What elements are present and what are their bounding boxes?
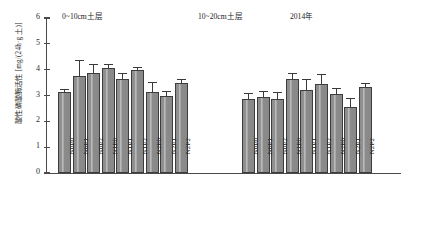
error-bar-line bbox=[277, 93, 278, 98]
y-tick-0 bbox=[44, 172, 50, 173]
error-bar-line bbox=[64, 90, 65, 92]
error-bar-cap bbox=[89, 64, 98, 65]
chart-figure: 酸性磷酸酶活性 [mg/(24h·g 土)] 0~10cm土层 10~20cm土… bbox=[0, 0, 425, 250]
x-tick-label-N0P1: N0P1 bbox=[266, 138, 274, 178]
x-tick-label-N0P0: N0P0 bbox=[252, 138, 260, 178]
y-tick-3 bbox=[44, 95, 50, 96]
x-tick-label-N0P2: N0P2 bbox=[97, 138, 105, 178]
error-bar-line bbox=[108, 65, 109, 68]
x-tick-label-N2P2: N2P2 bbox=[184, 138, 192, 178]
error-bar-line bbox=[350, 99, 351, 107]
y-tick-label-1: 1 bbox=[24, 142, 40, 150]
x-tick-label-N2P2: N2P2 bbox=[368, 138, 376, 178]
y-tick-label-0: 0 bbox=[24, 168, 40, 176]
error-bar-line bbox=[152, 83, 153, 92]
y-tick-label-4: 4 bbox=[24, 65, 40, 73]
error-bar-cap bbox=[346, 98, 355, 99]
x-tick-label-N1P2: N1P2 bbox=[325, 138, 333, 178]
error-bar-cap bbox=[317, 74, 326, 75]
x-tick-label-N1P1: N1P1 bbox=[126, 138, 134, 178]
x-tick-label-N2P1: N2P1 bbox=[170, 138, 178, 178]
x-tick-label-N1P0: N1P0 bbox=[295, 138, 303, 178]
error-bar-cap bbox=[133, 67, 142, 68]
error-bar-cap bbox=[273, 92, 282, 93]
error-bar-cap bbox=[162, 91, 171, 92]
x-tick-label-N1P2: N1P2 bbox=[141, 138, 149, 178]
x-tick-label-N1P0: N1P0 bbox=[111, 138, 119, 178]
error-bar-cap bbox=[118, 73, 127, 74]
error-bar-cap bbox=[104, 64, 113, 65]
error-bar-cap bbox=[177, 79, 186, 80]
x-tick-label-N0P1: N0P1 bbox=[82, 138, 90, 178]
error-bar-cap bbox=[259, 91, 268, 92]
y-axis-title: 酸性磷酸酶活性 [mg/(24h·g 土)] bbox=[13, 0, 23, 163]
error-bar-line bbox=[79, 61, 80, 76]
y-tick-label-3: 3 bbox=[24, 91, 40, 99]
error-bar-line bbox=[365, 84, 366, 87]
error-bar-cap bbox=[75, 60, 84, 61]
y-tick-1 bbox=[44, 147, 50, 148]
error-bar-line bbox=[166, 92, 167, 96]
error-bar-line bbox=[336, 89, 337, 94]
y-tick-4 bbox=[44, 69, 50, 70]
error-bar-line bbox=[93, 65, 94, 73]
error-bar-cap bbox=[332, 88, 341, 89]
error-bar-line bbox=[248, 94, 249, 99]
error-bar-line bbox=[292, 74, 293, 80]
x-tick-label-N2P1: N2P1 bbox=[354, 138, 362, 178]
error-bar-cap bbox=[302, 79, 311, 80]
error-bar-line bbox=[306, 80, 307, 90]
error-bar-cap bbox=[361, 83, 370, 84]
error-bar-cap bbox=[148, 82, 157, 83]
y-tick-label-6: 6 bbox=[24, 13, 40, 21]
x-tick-label-N2P0: N2P0 bbox=[155, 138, 163, 178]
x-tick-label-N0P0: N0P0 bbox=[68, 138, 76, 178]
error-bar-line bbox=[122, 74, 123, 80]
plot-area: 0123456 N0P0N0P1N0P2N1P0N1P1N1P2N2P0N2P1… bbox=[46, 18, 401, 173]
x-tick-label-N2P0: N2P0 bbox=[339, 138, 347, 178]
error-bar-cap bbox=[244, 93, 253, 94]
y-tick-label-2: 2 bbox=[24, 116, 40, 124]
error-bar-cap bbox=[288, 73, 297, 74]
error-bar-line bbox=[321, 75, 322, 84]
y-tick-2 bbox=[44, 121, 50, 122]
x-tick-label-N0P2: N0P2 bbox=[281, 138, 289, 178]
y-tick-5 bbox=[44, 43, 50, 44]
y-tick-label-5: 5 bbox=[24, 39, 40, 47]
x-tick-label-N1P1: N1P1 bbox=[310, 138, 318, 178]
error-bar-line bbox=[181, 80, 182, 83]
error-bar-cap bbox=[60, 89, 69, 90]
y-tick-6 bbox=[44, 17, 50, 18]
error-bar-line bbox=[263, 92, 264, 97]
error-bar-line bbox=[137, 68, 138, 71]
